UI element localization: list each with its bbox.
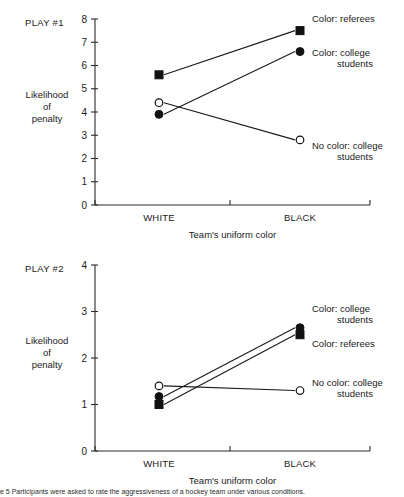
- y-tick-label: 4: [81, 260, 87, 271]
- legend-label: students: [337, 58, 373, 69]
- data-point-filled-square: [296, 27, 304, 35]
- series-open-circle: [155, 382, 304, 394]
- data-point-filled-square: [155, 71, 163, 79]
- x-category-label: WHITE: [143, 212, 175, 223]
- y-tick-label: 4: [81, 107, 87, 118]
- legend-label: Color: referees: [312, 13, 375, 24]
- series-filled-square: [155, 331, 304, 409]
- y-axis-title-line: Likelihood: [26, 89, 69, 100]
- x-axis-title: Team's uniform color: [189, 229, 276, 240]
- y-axis-title-line: Likelihood: [26, 335, 69, 346]
- y-axis-title-line: of: [43, 101, 51, 112]
- data-point-open-circle: [155, 382, 163, 390]
- chart-panel-play1: PLAY #1012345678WHITEBLACKTeam's uniform…: [0, 0, 404, 240]
- y-tick-label: 2: [81, 153, 87, 164]
- series-line: [164, 103, 295, 140]
- series-line: [164, 386, 295, 391]
- figure-caption: e 5 Participants were asked to rate the …: [0, 487, 404, 496]
- series-filled-circle: [155, 48, 304, 119]
- x-axis-title: Team's uniform color: [189, 475, 276, 486]
- data-point-filled-square: [155, 401, 163, 409]
- y-axis-title-line: of: [43, 347, 51, 358]
- y-axis-title-line: penalty: [32, 113, 63, 124]
- y-tick-label: 1: [81, 399, 87, 410]
- data-point-filled-square: [296, 331, 304, 339]
- data-point-open-circle: [155, 99, 163, 107]
- data-point-filled-circle: [296, 48, 304, 56]
- y-tick-label: 6: [81, 60, 87, 71]
- series-filled-square: [155, 27, 304, 79]
- legend-label: Color: college: [312, 303, 370, 314]
- legend-label: Color: referees: [312, 338, 375, 349]
- chart-svg-play2: PLAY #201234WHITEBLACKTeam's uniform col…: [0, 246, 404, 486]
- legend-label: students: [337, 151, 373, 162]
- legend-label: students: [337, 388, 373, 399]
- panel-title-play2: PLAY #2: [25, 263, 64, 274]
- y-tick-label: 0: [81, 446, 87, 457]
- y-tick-label: 0: [81, 200, 87, 211]
- legend-label: No color: college: [312, 140, 383, 151]
- y-tick-label: 1: [81, 176, 87, 187]
- panel-title-play1: PLAY #1: [25, 17, 64, 28]
- y-tick-label: 5: [81, 83, 87, 94]
- x-category-label: WHITE: [143, 458, 175, 469]
- y-tick-label: 3: [81, 306, 87, 317]
- x-category-label: BLACK: [284, 458, 317, 469]
- series-open-circle: [155, 99, 304, 144]
- series-line: [164, 52, 295, 115]
- legend-label: No color: college: [312, 377, 383, 388]
- y-tick-label: 3: [81, 130, 87, 141]
- series-line: [164, 31, 295, 75]
- y-tick-label: 7: [81, 37, 87, 48]
- y-axis-title-line: penalty: [32, 359, 63, 370]
- data-point-open-circle: [296, 387, 304, 395]
- data-point-open-circle: [296, 136, 304, 144]
- series-filled-circle: [155, 324, 304, 401]
- data-point-filled-circle: [155, 393, 163, 401]
- x-category-label: BLACK: [284, 212, 317, 223]
- chart-svg-play1: PLAY #1012345678WHITEBLACKTeam's uniform…: [0, 0, 404, 240]
- y-tick-label: 8: [81, 14, 87, 25]
- legend-label: students: [337, 314, 373, 325]
- y-tick-label: 2: [81, 353, 87, 364]
- figure-container: PLAY #1012345678WHITEBLACKTeam's uniform…: [0, 0, 404, 497]
- series-line: [164, 335, 295, 405]
- chart-panel-play2: PLAY #201234WHITEBLACKTeam's uniform col…: [0, 246, 404, 486]
- data-point-filled-circle: [155, 110, 163, 118]
- legend-label: Color: college: [312, 47, 370, 58]
